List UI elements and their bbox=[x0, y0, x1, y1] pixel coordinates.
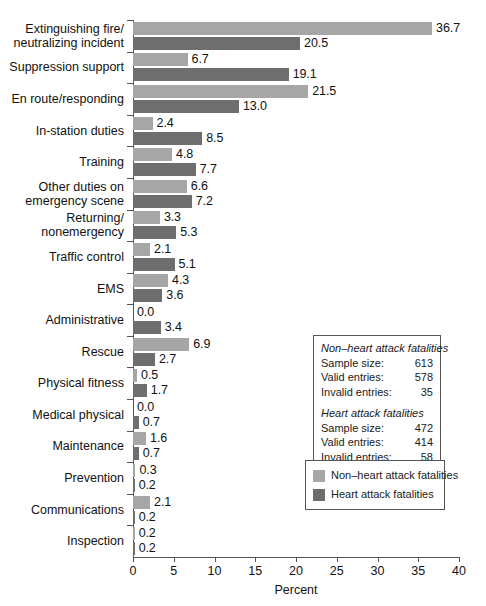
statistics-box: Non–heart attack fatalities Sample size:… bbox=[313, 335, 441, 471]
stats-row: Valid entries: 578 bbox=[321, 370, 433, 385]
bar-value-label: 2.4 bbox=[157, 117, 174, 130]
bar-value-label: 7.7 bbox=[200, 163, 217, 176]
stats-label: Sample size: bbox=[321, 421, 384, 436]
bar-value-label: 19.1 bbox=[293, 68, 317, 81]
bar-value-label: 13.0 bbox=[243, 100, 267, 113]
chart-category-group: 21.513.0 bbox=[133, 83, 459, 115]
bar-value-label: 1.7 bbox=[151, 384, 168, 397]
bar-value-label: 4.3 bbox=[172, 274, 189, 287]
chart-bar bbox=[133, 132, 202, 145]
bar-value-label: 2.7 bbox=[159, 353, 176, 366]
legend-swatch-icon bbox=[313, 489, 325, 501]
stats-value: 472 bbox=[407, 421, 433, 436]
bar-value-label: 0.5 bbox=[141, 369, 158, 382]
bar-value-label: 0.0 bbox=[137, 401, 154, 414]
chart-bar bbox=[133, 527, 135, 540]
y-axis-tick bbox=[127, 241, 133, 242]
x-axis-tick-label: 40 bbox=[452, 564, 466, 578]
chart-bar bbox=[133, 85, 308, 98]
chart-category-group: 4.33.6 bbox=[133, 273, 459, 305]
bar-value-label: 0.7 bbox=[143, 416, 160, 429]
bar-value-label: 7.2 bbox=[196, 195, 213, 208]
stats-value: 578 bbox=[407, 370, 433, 385]
x-axis-tick bbox=[337, 557, 338, 562]
y-axis-category-label: Inspection bbox=[0, 534, 124, 548]
y-axis-tick bbox=[127, 146, 133, 147]
y-axis-tick bbox=[127, 336, 133, 337]
stats-label: Sample size: bbox=[321, 356, 384, 371]
y-axis-category-label: Communications bbox=[0, 503, 124, 517]
chart-bar bbox=[133, 511, 135, 524]
y-axis-category-label: En route/responding bbox=[0, 92, 124, 106]
x-axis-tick-label: 0 bbox=[130, 564, 137, 578]
y-axis-category-label: EMS bbox=[0, 282, 124, 296]
chart-category-group: 6.67.2 bbox=[133, 178, 459, 210]
y-axis-category-label: Prevention bbox=[0, 471, 124, 485]
x-axis-tick bbox=[459, 557, 460, 562]
legend-label: Non–heart attack fatalities bbox=[331, 469, 458, 482]
chart-bar bbox=[133, 274, 168, 287]
chart-category-group: 6.719.1 bbox=[133, 52, 459, 84]
chart-bar bbox=[133, 53, 188, 66]
chart-legend: Non–heart attack fatalities Heart attack… bbox=[305, 460, 445, 510]
y-axis-tick bbox=[127, 431, 133, 432]
y-axis-tick bbox=[127, 462, 133, 463]
bar-value-label: 3.4 bbox=[165, 321, 182, 334]
y-axis-category-label: Other duties on emergency scene bbox=[0, 180, 124, 208]
chart-category-group: 0.20.2 bbox=[133, 525, 459, 557]
chart-bar bbox=[133, 258, 175, 271]
x-axis-tick-label: 10 bbox=[208, 564, 222, 578]
chart-category-group: 4.87.7 bbox=[133, 146, 459, 178]
y-axis-category-label: Rescue bbox=[0, 345, 124, 359]
bar-value-label: 3.3 bbox=[164, 211, 181, 224]
bar-value-label: 3.6 bbox=[166, 289, 183, 302]
y-axis-tick bbox=[127, 83, 133, 84]
chart-category-group: 3.35.3 bbox=[133, 210, 459, 242]
y-axis-category-label: Physical fitness bbox=[0, 376, 124, 390]
y-axis-tick bbox=[127, 304, 133, 305]
y-axis-category-label: Returning/ nonemergency bbox=[0, 211, 124, 239]
stats-row: Invalid entries: 35 bbox=[321, 385, 433, 400]
chart-bar bbox=[133, 353, 155, 366]
stats-group1-title: Non–heart attack fatalities bbox=[321, 341, 433, 356]
bar-value-label: 2.1 bbox=[154, 496, 171, 509]
legend-swatch-icon bbox=[313, 470, 325, 482]
x-axis-tick-label: 5 bbox=[170, 564, 177, 578]
chart-bar bbox=[133, 289, 162, 302]
stats-value: 613 bbox=[407, 356, 433, 371]
legend-item-heart-attack: Heart attack fatalities bbox=[313, 486, 437, 503]
y-axis-category-label: Medical physical bbox=[0, 408, 124, 422]
stats-label: Invalid entries: bbox=[321, 385, 392, 400]
chart-category-group: 36.720.5 bbox=[133, 20, 459, 52]
chart-bar bbox=[133, 195, 192, 208]
y-axis-category-label: Traffic control bbox=[0, 250, 124, 264]
x-axis-tick bbox=[296, 557, 297, 562]
x-axis-tick bbox=[174, 557, 175, 562]
stats-label: Valid entries: bbox=[321, 435, 384, 450]
y-axis-tick bbox=[127, 273, 133, 274]
y-axis-tick bbox=[127, 178, 133, 179]
chart-bar bbox=[133, 22, 432, 35]
chart-bar bbox=[133, 369, 137, 382]
y-axis-labels: Extinguishing fire/ neutralizing inciden… bbox=[0, 20, 126, 557]
x-axis-tick-label: 20 bbox=[289, 564, 303, 578]
chart-bar bbox=[133, 180, 187, 193]
bar-value-label: 21.5 bbox=[312, 85, 336, 98]
bar-value-label: 5.3 bbox=[180, 226, 197, 239]
chart-category-group: 2.15.1 bbox=[133, 241, 459, 273]
x-axis-tick bbox=[255, 557, 256, 562]
chart-bar bbox=[133, 432, 146, 445]
y-axis-tick bbox=[127, 494, 133, 495]
chart-bar bbox=[133, 416, 139, 429]
bar-value-label: 0.2 bbox=[139, 527, 156, 540]
y-axis-tick bbox=[127, 52, 133, 53]
bar-value-label: 0.3 bbox=[139, 464, 156, 477]
stats-group2-title: Heart attack fatalities bbox=[321, 406, 433, 421]
chart-bar bbox=[133, 321, 161, 334]
chart-bar bbox=[133, 447, 139, 460]
y-axis-category-label: Suppression support bbox=[0, 60, 124, 74]
y-axis-category-label: Administrative bbox=[0, 313, 124, 327]
y-axis-tick bbox=[127, 367, 133, 368]
chart-category-group: 2.48.5 bbox=[133, 115, 459, 147]
y-axis-tick bbox=[127, 115, 133, 116]
